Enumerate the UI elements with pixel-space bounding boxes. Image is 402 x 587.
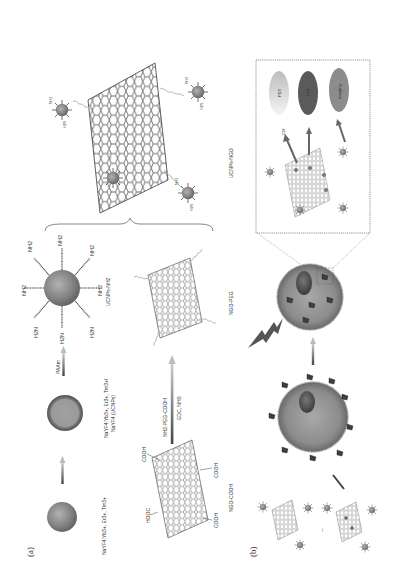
ucnps-nh2-particle xyxy=(24,248,100,328)
amine-label: H2N xyxy=(200,102,204,110)
carboxyl-label: COOH xyxy=(141,447,147,462)
arrow-core-to-shell-icon xyxy=(60,456,66,484)
arrow-paam-icon xyxy=(61,346,67,376)
paam-label: PAAm xyxy=(55,360,61,374)
core-composition-label: NaYF4:Yb3+, Er3+, Tm3+ xyxy=(101,497,107,555)
amine-label: NH2 xyxy=(21,285,27,296)
ptt-label: PTT xyxy=(306,88,311,96)
outcome-pdt: PDT xyxy=(269,71,289,115)
zoom-line xyxy=(257,233,300,264)
nucleus xyxy=(296,271,312,295)
ucnps-ngo-label: UCNPs-NGO xyxy=(228,148,234,178)
amine-label: NH2 xyxy=(89,245,95,256)
panel-a: (a) PAAm xyxy=(21,63,234,557)
cell-after-uptake xyxy=(277,264,343,330)
nucleus xyxy=(299,391,315,413)
ngo-cooh-label: NGO-COOH xyxy=(228,484,234,512)
cell-before-uptake xyxy=(269,374,353,461)
ucnps-ngo-construct-left xyxy=(258,500,314,551)
amine-label: NH2 xyxy=(27,241,33,252)
separator: -- xyxy=(319,528,325,532)
ucnps-ngo-complex xyxy=(52,63,208,213)
arrow-uptake-icon xyxy=(333,475,344,489)
zoom-line xyxy=(333,233,370,268)
ngo-peg-label: NGO-PEG xyxy=(228,291,234,315)
carboxyl-label: COOH xyxy=(213,463,219,478)
outcome-ptt: PTT xyxy=(298,71,318,115)
arrow-internalization-icon xyxy=(310,337,316,365)
amine-label: NH2 xyxy=(175,178,179,185)
amine-label: H2N xyxy=(190,203,194,211)
core-shell-composition-label-line2: NaYF4 (UCNPs) xyxy=(110,395,116,432)
reagent-label: NH2-PEG-COOH xyxy=(162,398,168,437)
ucnps-ngo-scheme: (a) PAAm xyxy=(0,0,402,587)
singlet-oxygen-label: 1O2 xyxy=(281,128,286,136)
ucnps-nh2-label: UCNPs-NH2 xyxy=(105,277,111,306)
pdt-label: PDT xyxy=(277,88,282,97)
core-shell-composition-label-line1: NaYF4:Yb3+, Er3+, Tm3+/ xyxy=(103,378,109,438)
ucnps-ngo-construct-right xyxy=(322,502,378,553)
arrow-pegylation-icon xyxy=(169,355,176,444)
panel-b-label: (b) xyxy=(248,547,258,558)
amine-label: H2N xyxy=(33,327,39,338)
nir-laser-icon xyxy=(248,318,283,348)
amine-label: NH2 xyxy=(49,97,53,104)
curly-brace xyxy=(45,218,213,231)
ngo-peg-sheet xyxy=(134,249,216,346)
amine-label: NH2 xyxy=(185,77,189,84)
outcome-imaging: Imaging xyxy=(329,68,349,112)
core-nanoparticle xyxy=(47,502,77,532)
imaging-label: Imaging xyxy=(337,83,342,99)
amine-label: H2N xyxy=(89,327,95,338)
mechanism-inset: PDT PTT Imaging 1O2 xyxy=(256,60,370,233)
panel-a-label: (a) xyxy=(25,547,35,557)
carboxyl-label: HOOC xyxy=(145,508,151,523)
ngo-cooh-sheet xyxy=(147,440,212,538)
amine-label: NH2 xyxy=(97,285,103,296)
amine-label: NH2 xyxy=(57,235,63,246)
catalyst-label: EDC, NHS xyxy=(176,395,182,420)
amine-label: H2N xyxy=(63,120,67,128)
amine-label: H2N xyxy=(59,333,65,344)
core-shell-nanoparticle xyxy=(47,395,83,431)
carboxyl-label: COOH xyxy=(213,513,219,528)
panel-b: (b) -- xyxy=(248,60,378,557)
